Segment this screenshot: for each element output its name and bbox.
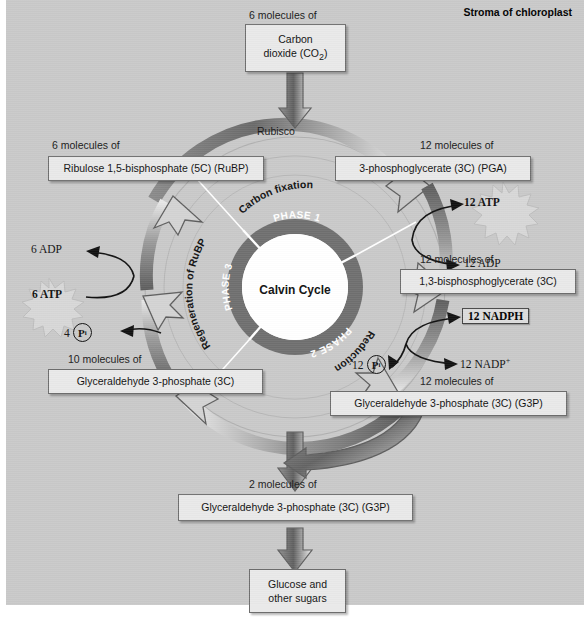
pi-circle-right: Pi	[367, 355, 386, 374]
g3p-left-caption: 10 molecules of	[68, 353, 142, 365]
pi-4-label: 4 Pi	[64, 323, 92, 342]
arrow-to-glucose	[278, 528, 312, 572]
glucose-line1: Glucose and	[268, 577, 327, 591]
glucose-line2: other sugars	[268, 591, 326, 605]
co2-caption: 6 molecules of	[249, 9, 317, 21]
atp-12-label: 12 ATP	[464, 196, 500, 208]
box-pga[interactable]: 3-phosphoglycerate (3C) (PGA)	[335, 156, 531, 181]
box-glucose[interactable]: Glucose and other sugars	[249, 569, 346, 613]
box-bpg[interactable]: 1,3-bisphosphoglycerate (3C)	[400, 269, 576, 294]
pga-caption: 12 molecules of	[420, 139, 494, 151]
g3p-right-caption: 12 molecules of	[420, 375, 494, 387]
box-g3p-output[interactable]: Glyceraldehyde 3-phosphate (3C) (G3P)	[178, 494, 413, 521]
box-g3p-left[interactable]: Glyceraldehyde 3-phosphate (3C)	[48, 369, 263, 394]
atp-starburst-right	[472, 182, 539, 245]
adp-12-label: 12 ADP	[464, 257, 501, 269]
g3p-out-caption: 2 molecules of	[249, 478, 317, 490]
nadph-12-label: 12 NADPH	[462, 308, 529, 324]
diagram-frame: Calvin Cycle PHASE 1 PHASE 2 PHASE 3 Car…	[6, 0, 584, 605]
regeneration-label: Regeneration of RuBP	[182, 236, 212, 352]
box-carbon-dioxide[interactable]: Carbon dioxide (CO2)	[245, 24, 346, 72]
atp-adp-curve-left	[86, 252, 134, 298]
atp-6-label: 6 ATP	[32, 288, 62, 300]
pi-12-label: 12 Pi	[352, 355, 386, 374]
box-g3p-right[interactable]: Glyceraldehyde 3-phosphate (3C) (G3P)	[330, 391, 567, 416]
rubp-caption: 6 molecules of	[52, 139, 120, 151]
rubisco-label: Rubisco	[257, 125, 295, 137]
diagram-page: Calvin Cycle PHASE 1 PHASE 2 PHASE 3 Car…	[0, 0, 584, 637]
pi-circle-left: Pi	[73, 323, 92, 342]
box-rubp[interactable]: Ribulose 1,5-bisphosphate (5C) (RuBP)	[48, 156, 264, 181]
co2-line1: Carbon	[278, 32, 312, 46]
nadp-12-label: 12 NADP+	[460, 356, 510, 370]
stroma-label: Stroma of chloroplast	[463, 6, 572, 18]
co2-line2: dioxide (CO2)	[264, 46, 328, 63]
calvin-cycle-label: Calvin Cycle	[259, 283, 331, 297]
adp-6-label: 6 ADP	[31, 243, 62, 255]
